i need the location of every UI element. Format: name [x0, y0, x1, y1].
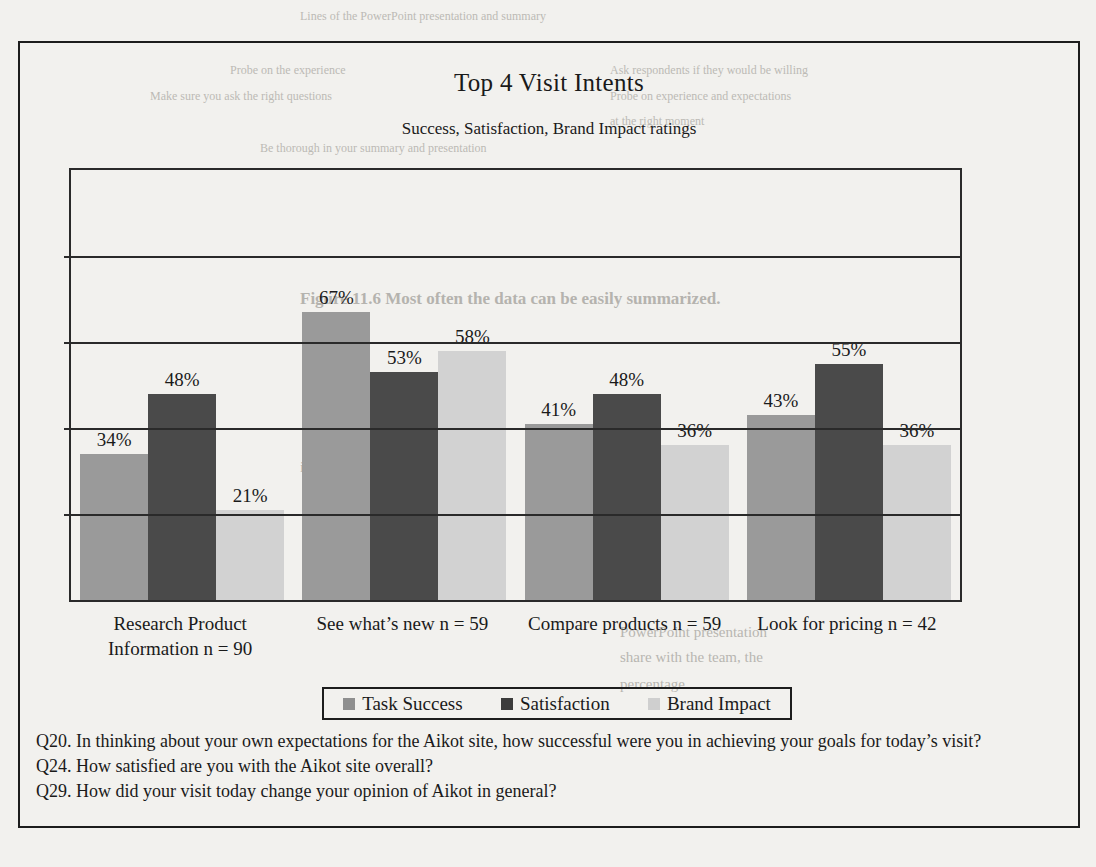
- bar[interactable]: 21%: [216, 510, 284, 600]
- footnote-line: Q29. How did your visit today change you…: [36, 779, 1056, 804]
- bar-value-label: 36%: [677, 420, 712, 442]
- gridline: [71, 428, 960, 430]
- bar-value-label: 36%: [899, 420, 934, 442]
- category-label: See what’s new n = 59: [291, 611, 513, 636]
- bar[interactable]: 67%: [302, 312, 370, 600]
- plot-area: 34%48%21%67%53%58%41%48%36%43%55%36%: [69, 168, 962, 602]
- bar[interactable]: 48%: [148, 394, 216, 600]
- bar-value-label: 48%: [165, 369, 200, 391]
- legend-swatch: [501, 698, 513, 710]
- chart-subtitle: Success, Satisfaction, Brand Impact rati…: [20, 119, 1078, 139]
- axis-tick: [64, 256, 71, 258]
- footnote-line: Q24. How satisfied are you with the Aiko…: [36, 754, 1056, 779]
- category-label: Look for pricing n = 42: [736, 611, 958, 636]
- bar[interactable]: 48%: [593, 394, 661, 600]
- gridline: [71, 342, 960, 344]
- bar-value-label: 34%: [97, 429, 132, 451]
- legend-item[interactable]: Satisfaction: [501, 693, 610, 715]
- axis-tick: [64, 514, 71, 516]
- bar-value-label: 58%: [455, 326, 490, 348]
- bar-group: 43%55%36%: [747, 170, 951, 600]
- legend-item[interactable]: Task Success: [343, 693, 463, 715]
- legend-swatch: [648, 698, 660, 710]
- bars-layer: 34%48%21%67%53%58%41%48%36%43%55%36%: [71, 170, 960, 600]
- gridline: [71, 514, 960, 516]
- chart-legend: Task SuccessSatisfactionBrand Impact: [322, 687, 792, 720]
- category-label: Compare products n = 59: [514, 611, 736, 636]
- bar-group: 67%53%58%: [302, 170, 506, 600]
- bar[interactable]: 53%: [370, 372, 438, 600]
- bar[interactable]: 34%: [80, 454, 148, 600]
- footnote-line: Q20. In thinking about your own expectat…: [36, 729, 1056, 754]
- bar-value-label: 41%: [541, 399, 576, 421]
- bar[interactable]: 43%: [747, 415, 815, 600]
- legend-swatch: [343, 698, 355, 710]
- bar[interactable]: 36%: [883, 445, 951, 600]
- bar-value-label: 48%: [609, 369, 644, 391]
- legend-label: Satisfaction: [520, 693, 610, 715]
- figure-frame: Top 4 Visit Intents Success, Satisfactio…: [18, 41, 1080, 828]
- legend-label: Task Success: [362, 693, 463, 715]
- footnote-block: Q20. In thinking about your own expectat…: [36, 729, 1056, 804]
- chart-title: Top 4 Visit Intents: [20, 69, 1078, 97]
- category-axis-labels: Research ProductInformation n = 90See wh…: [69, 611, 962, 671]
- bar[interactable]: 55%: [815, 364, 883, 601]
- gridline: [71, 256, 960, 258]
- bar-value-label: 53%: [387, 347, 422, 369]
- axis-tick: [64, 428, 71, 430]
- bar-value-label: 43%: [763, 390, 798, 412]
- bleed-text-line: Lines of the PowerPoint presentation and…: [300, 8, 546, 25]
- bar-group: 41%48%36%: [525, 170, 729, 600]
- bar-value-label: 21%: [233, 485, 268, 507]
- bar[interactable]: 36%: [661, 445, 729, 600]
- category-label: Research ProductInformation n = 90: [69, 611, 291, 661]
- legend-label: Brand Impact: [667, 693, 771, 715]
- legend-item[interactable]: Brand Impact: [648, 693, 771, 715]
- bar-value-label: 67%: [319, 287, 354, 309]
- bar-group: 34%48%21%: [80, 170, 284, 600]
- axis-tick: [64, 342, 71, 344]
- bar[interactable]: 41%: [525, 424, 593, 600]
- bar[interactable]: 58%: [438, 351, 506, 600]
